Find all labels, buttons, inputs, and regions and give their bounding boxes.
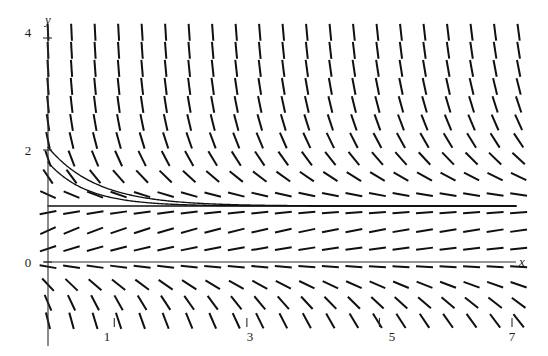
slope-segment [71,78,73,95]
slope-segment [395,152,406,165]
slope-segment [276,281,291,289]
slope-segment [185,151,193,166]
slope-segment [324,297,336,309]
slope-segment [205,280,220,289]
plot-canvas: y x 4 2 0 1 3 5 7 [0,0,548,356]
slope-segment [517,60,520,77]
slope-segment [493,96,498,112]
slope-segment [282,42,284,59]
slope-segment [441,173,456,181]
slope-segment [447,60,450,77]
slope-segment [188,42,189,59]
slope-segment [158,228,174,233]
slope-segment [204,247,221,250]
slope-segment [252,281,267,289]
slope-segment [517,42,520,59]
slope-segment [275,229,292,233]
slope-segment [440,266,457,267]
slope-segment [93,313,98,329]
slope-segment [87,266,104,268]
slope-segment [442,152,454,164]
slope-segment [352,96,356,112]
slope-segment [71,96,73,113]
slope-segment [211,114,215,130]
slope-segment [440,282,456,288]
slope-segment [165,42,166,59]
slope-segment [251,212,268,214]
slope-segment [345,247,362,249]
slope-segment [229,281,244,289]
slope-segment [322,247,339,249]
slope-segment [160,171,172,183]
slope-segment [421,115,427,131]
slope-segment [136,170,148,182]
slope-segment [89,279,102,290]
slope-segment [157,212,174,214]
slope-segment [259,24,260,41]
slope-segment [306,24,308,41]
slope-segment [114,295,122,310]
slope-segment [275,247,292,250]
slope-segment [399,78,402,95]
slope-segment [400,42,402,59]
slope-segment [117,96,119,113]
slope-segment [259,42,261,59]
slope-segment [487,229,504,232]
slope-segment [164,96,167,113]
slope-segment [492,115,499,131]
slope-segment [488,298,501,308]
slope-segment [95,24,96,41]
slope-segment [440,193,457,196]
slope-segment [228,247,245,250]
slope-segment [396,314,405,328]
slope-segment [393,248,410,250]
slope-segment [91,295,99,310]
slope-segment [235,96,238,113]
slope-segment [110,266,127,268]
slope-segment [251,247,268,250]
slope-segment [491,133,500,147]
slope-segment [281,114,286,130]
slope-segment [351,114,357,130]
slope-segment [210,133,216,149]
slope-segment [376,42,378,59]
slope-segment [369,193,386,196]
slope-segment [110,247,126,251]
slope-segment [233,313,240,328]
slope-segment [189,24,190,41]
slope-segment [208,151,217,166]
slope-segment [464,173,479,181]
slope-segment [181,228,197,233]
slope-segment [322,266,339,267]
slope-segment [345,266,362,267]
slope-segment [188,60,190,77]
slope-segment [275,193,292,197]
slope-segment [346,229,363,232]
slope-segment [514,133,523,147]
slope-segment [494,24,496,41]
y-tick-label-0: 0 [25,255,32,270]
slope-segment [140,132,145,148]
x-tick-label-7: 7 [509,329,516,344]
slope-segment [282,60,284,77]
slope-segment [111,228,127,234]
x-tick-label-1: 1 [104,329,111,344]
slope-segment [463,266,480,267]
slope-segment [134,247,151,251]
slope-segment [305,78,308,95]
slope-segment [87,228,103,234]
slope-segment [328,114,333,130]
slope-segment [299,281,314,288]
slope-segment [258,96,261,113]
slope-segment [298,212,315,214]
slope-segment [181,266,198,268]
slope-segment [235,60,237,77]
slope-segment [375,114,381,130]
slope-segment [228,266,245,268]
slope-segment [71,42,72,59]
y-tick-label-2: 2 [25,143,32,158]
slope-segment [393,282,409,288]
slope-segment [510,248,527,250]
slope-segment [186,132,192,148]
slope-segment [211,96,214,113]
